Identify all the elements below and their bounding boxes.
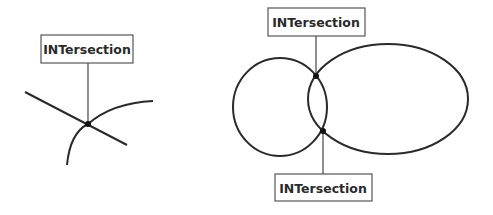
bottom-intersection-label: INTersection bbox=[275, 174, 372, 201]
circle bbox=[233, 58, 327, 156]
curve bbox=[67, 101, 153, 165]
label-text: INTersection bbox=[272, 15, 360, 30]
label-text: INTersection bbox=[43, 42, 131, 57]
left-diagram: INTersection bbox=[25, 35, 153, 165]
top-intersection-label: INTersection bbox=[268, 8, 365, 36]
top-intersection-point bbox=[313, 73, 319, 79]
intersection-point bbox=[85, 121, 91, 127]
diagram-canvas: INTersection INTersection INTersection bbox=[0, 0, 493, 215]
bottom-intersection-point bbox=[320, 128, 326, 134]
intersection-label: INTersection bbox=[41, 35, 133, 63]
straight-line bbox=[25, 92, 127, 145]
label-text: INTersection bbox=[279, 181, 367, 196]
right-diagram: INTersection INTersection bbox=[233, 8, 468, 201]
ellipse bbox=[308, 44, 468, 154]
